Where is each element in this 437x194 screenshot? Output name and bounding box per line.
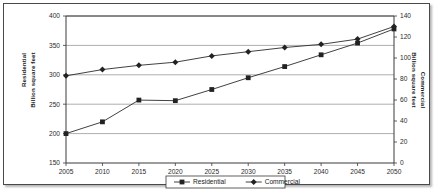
x-tick-label: 2045 — [350, 168, 365, 175]
x-tick-label: 2030 — [241, 168, 256, 175]
right-tick-label: 20 — [400, 138, 408, 145]
x-tick-label: 2010 — [95, 168, 110, 175]
gridlines-group — [66, 16, 394, 134]
chart-svg: 150200250300350400 020406080100120140 20… — [0, 0, 437, 194]
left-tick-label: 350 — [49, 42, 60, 49]
right-tick-label: 60 — [400, 96, 408, 103]
x-tick-label: 2025 — [204, 168, 219, 175]
left-tick-label: 150 — [49, 159, 60, 166]
legend-marker-residential — [180, 180, 185, 185]
right-tick-label: 120 — [400, 33, 411, 40]
data-point-commercial — [245, 49, 251, 55]
left-axis-title-line1: Residential — [20, 53, 27, 87]
chart-legend: ResidentialCommercial — [166, 176, 300, 188]
data-point-commercial — [99, 67, 105, 73]
x-tick-label: 2020 — [168, 168, 183, 175]
x-axis-ticklabels: 2005201020152020202520302035204020452050 — [59, 163, 402, 175]
series-line-commercial — [66, 27, 394, 76]
data-point-residential — [319, 52, 324, 57]
left-tick-label: 400 — [49, 12, 60, 19]
legend-label-residential[interactable]: Residential — [193, 178, 226, 185]
axes-group — [66, 16, 394, 163]
data-point-residential — [173, 98, 178, 103]
data-point-residential — [246, 75, 251, 80]
right-axis-title-line2: Billion square feet — [411, 52, 418, 108]
data-point-residential — [209, 87, 214, 92]
data-point-residential — [64, 131, 69, 136]
x-tick-label: 2050 — [387, 168, 402, 175]
data-point-commercial — [172, 59, 178, 65]
data-point-residential — [136, 98, 141, 103]
series-line-residential — [66, 29, 394, 134]
x-tick-label: 2035 — [277, 168, 292, 175]
data-point-commercial — [63, 73, 69, 79]
left-tick-label: 250 — [49, 101, 60, 108]
data-point-commercial — [209, 53, 215, 59]
right-tick-label: 0 — [400, 159, 404, 166]
right-axis-ticklabels: 020406080100120140 — [394, 12, 411, 166]
x-tick-label: 2040 — [314, 168, 329, 175]
right-tick-label: 80 — [400, 75, 408, 82]
right-tick-label: 140 — [400, 12, 411, 19]
left-tick-label: 200 — [49, 130, 60, 137]
right-axis-title-line1: Commercial — [420, 72, 427, 109]
data-point-commercial — [318, 41, 324, 47]
left-tick-label: 300 — [49, 71, 60, 78]
data-point-commercial — [136, 62, 142, 68]
x-tick-label: 2005 — [59, 168, 74, 175]
x-tick-label: 2015 — [132, 168, 147, 175]
series-group — [63, 24, 397, 137]
right-tick-label: 40 — [400, 117, 408, 124]
right-tick-label: 100 — [400, 54, 411, 61]
data-point-residential — [282, 64, 287, 69]
chart-container: 150200250300350400 020406080100120140 20… — [0, 0, 437, 194]
left-axis-title-line2: Billion square feet — [29, 52, 36, 108]
data-point-residential — [100, 119, 105, 124]
legend-label-commercial[interactable]: Commercial — [265, 178, 301, 185]
left-axis-ticklabels: 150200250300350400 — [49, 12, 66, 166]
